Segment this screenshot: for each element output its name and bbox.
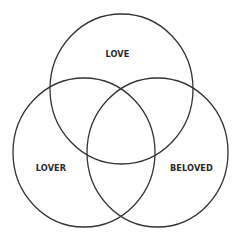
set-beloved: BELOVED [87,78,228,227]
venn-diagram: LOVE LOVER BELOVED [0,0,242,244]
label-lover: LOVER [36,163,67,173]
label-beloved: BELOVED [170,163,213,173]
circle-beloved [87,78,228,227]
label-love: LOVE [106,49,130,59]
